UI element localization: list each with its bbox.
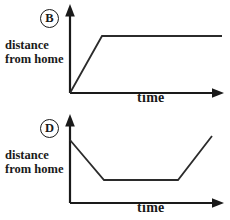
graph-panel-d: D distance from home time [0, 110, 230, 220]
y-axis-label-d-line2: from home [5, 162, 71, 176]
x-axis-label-d: time [137, 200, 165, 216]
panel-label-d: D [40, 119, 59, 138]
data-line-d [70, 136, 212, 180]
y-axis-label-b: distance from home [5, 38, 71, 66]
y-axis-label-b-line2: from home [5, 52, 71, 66]
y-axis-label-d: distance from home [5, 148, 71, 176]
graph-panel-b: B distance from home time [0, 0, 230, 110]
x-axis-label-b: time [137, 90, 165, 106]
data-line-b [70, 36, 222, 93]
y-axis-label-d-line1: distance [5, 148, 49, 162]
y-axis-label-b-line1: distance [5, 38, 49, 52]
panel-label-b: B [40, 9, 59, 28]
